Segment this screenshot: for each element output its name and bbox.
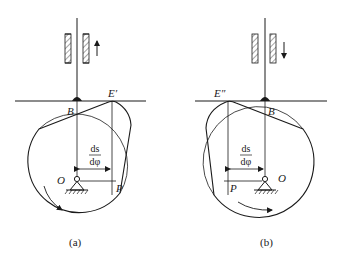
- label-b-b: B: [268, 106, 275, 117]
- label-b-a: B: [67, 106, 74, 117]
- base-circle-arc-b: [203, 107, 303, 195]
- label-ds-b: ds: [239, 144, 253, 154]
- label-dphi-a: dφ: [87, 157, 103, 167]
- rotation-arrow-b: [238, 202, 272, 210]
- label-o-a: O: [57, 175, 65, 186]
- label-p-a: P: [116, 183, 123, 194]
- guide-bearing-b: [252, 34, 276, 63]
- caption-b: (b): [260, 237, 273, 248]
- label-o-b: O: [278, 173, 286, 184]
- cam-profile-b: [206, 101, 314, 217]
- rotation-arrow-a: [44, 186, 62, 210]
- caption-a: (a): [69, 237, 81, 248]
- diagram-svg: [0, 0, 337, 261]
- label-p-b: P: [230, 183, 237, 194]
- label-e-double-prime: E″: [214, 88, 225, 99]
- label-dphi-b: dφ: [238, 157, 254, 167]
- panel-b: [195, 18, 327, 217]
- contact-joint-b: [260, 97, 270, 101]
- cam-follower-figure: B E′ ds dφ O P (a) B E″ ds dφ O P (b): [0, 0, 337, 261]
- label-e-prime: E′: [108, 88, 117, 99]
- cam-profile-a: [28, 101, 131, 212]
- panel-a: [15, 18, 146, 213]
- contact-joint-a: [72, 97, 82, 101]
- label-ds-a: ds: [88, 144, 102, 154]
